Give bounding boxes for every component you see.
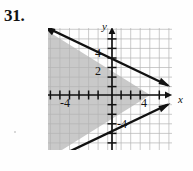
x-tick-label-4: 4 xyxy=(141,96,147,111)
x-tick-label-negative-4: -4 xyxy=(60,96,70,111)
scan-artifact xyxy=(14,131,16,133)
figure-panel: 31. xyxy=(0,0,193,171)
y-tick-label-4: 4 xyxy=(95,46,101,61)
coordinate-graph xyxy=(48,28,172,150)
x-axis-label: x xyxy=(178,93,183,105)
y-tick-label-2: 2 xyxy=(95,64,101,79)
y-tick-label-negative-4: -4 xyxy=(117,117,127,132)
graph-svg xyxy=(48,28,172,150)
y-axis-label: y xyxy=(102,20,107,32)
problem-number: 31. xyxy=(4,6,24,26)
